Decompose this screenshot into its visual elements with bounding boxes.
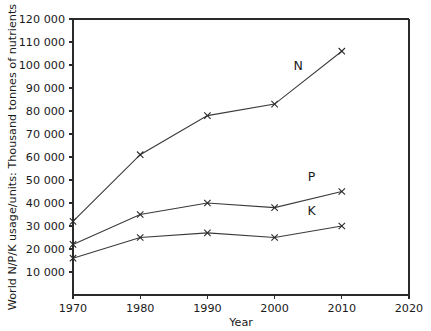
chart-background: [0, 0, 431, 331]
y-tick-label: 70 000: [26, 128, 65, 141]
y-tick-label: 20 000: [26, 243, 65, 256]
y-tick-label: 30 000: [26, 220, 65, 233]
y-tick-label: 60 000: [26, 151, 65, 164]
y-axis-title: World N/P/K usage/units: Thousand tonnes…: [6, 4, 19, 310]
x-tick-label: 1970: [59, 302, 87, 315]
x-tick-label: 2010: [328, 302, 356, 315]
x-axis-title: Year: [228, 316, 253, 329]
x-tick-label: 2000: [260, 302, 288, 315]
y-tick-label: 10 000: [26, 266, 65, 279]
series-label-N: N: [293, 58, 302, 73]
y-tick-label: 110 000: [19, 36, 65, 49]
line-chart: 10 00020 00030 00040 00050 00060 00070 0…: [0, 0, 431, 331]
y-tick-label: 50 000: [26, 174, 65, 187]
x-tick-label: 2020: [395, 302, 423, 315]
y-tick-label: 120 000: [19, 13, 65, 26]
series-label-K: K: [307, 203, 316, 218]
series-label-P: P: [308, 169, 316, 184]
x-tick-label: 1980: [126, 302, 154, 315]
x-tick-label: 1990: [193, 302, 221, 315]
y-tick-label: 90 000: [26, 82, 65, 95]
y-tick-label: 100 000: [19, 59, 65, 72]
y-tick-label: 80 000: [26, 105, 65, 118]
y-tick-label: 40 000: [26, 197, 65, 210]
chart-page: 10 00020 00030 00040 00050 00060 00070 0…: [0, 0, 431, 331]
